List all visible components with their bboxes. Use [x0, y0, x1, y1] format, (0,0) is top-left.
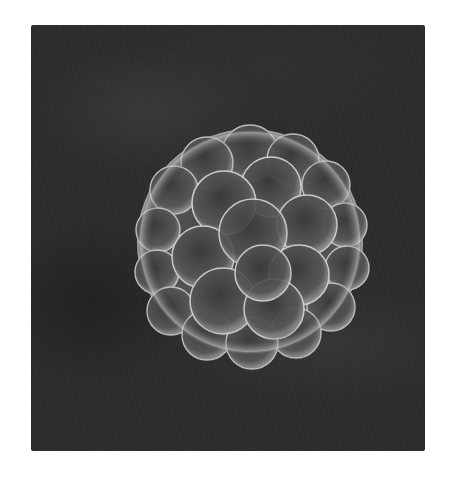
cell-cluster-illustration — [31, 25, 425, 451]
cell-cluster — [135, 125, 369, 369]
micrograph-photo — [31, 25, 425, 451]
